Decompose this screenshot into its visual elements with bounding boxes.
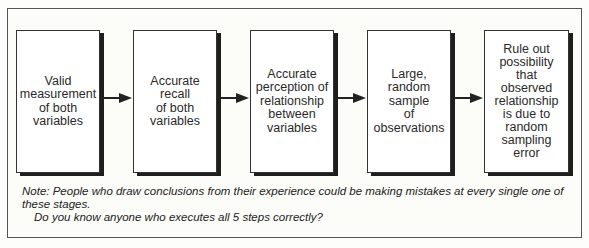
arrow-icon — [101, 94, 132, 102]
step-4-large-random-sample: Large, random sample of observations — [367, 30, 451, 173]
step-5-rule-out-sampling-error: Rule out possibility that observed relat… — [484, 30, 569, 173]
step-2-accurate-recall: Accurate recall of both variables — [133, 30, 217, 173]
arrow-icon — [218, 94, 249, 102]
step-1-valid-measurement: Valid measurement of both variables — [16, 30, 100, 173]
step-label: Valid measurement of both variables — [20, 75, 96, 129]
step-label: Rule out possibility that observed relat… — [495, 43, 559, 160]
note-line-2: Do you know anyone who executes all 5 st… — [22, 211, 578, 224]
step-label: Accurate recall of both variables — [150, 75, 200, 129]
arrow-icon — [335, 94, 366, 102]
step-label: Accurate perception of relationship betw… — [256, 68, 328, 136]
step-label: Large, random sample of observations — [374, 68, 445, 136]
step-3-accurate-perception: Accurate perception of relationship betw… — [250, 30, 334, 173]
arrow-icon — [452, 94, 483, 102]
note-text: Note: People who draw conclusions from t… — [22, 185, 578, 224]
note-line-1: Note: People who draw conclusions from t… — [22, 185, 563, 210]
